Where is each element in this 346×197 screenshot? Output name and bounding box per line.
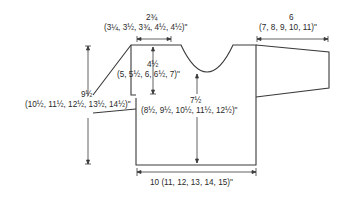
width-label: 10 (11, 12, 13, 14, 15)": [150, 178, 233, 188]
neck-width-main: 2¾: [146, 13, 157, 23]
body-length-sizes: (8½, 9½, 10½, 11½, 12½)": [141, 106, 238, 116]
total-length-sizes: (10½, 11½, 12½, 13½, 14½)": [25, 100, 131, 110]
armhole-depth-sizes: (5, 5½, 6, 6½, 7)": [117, 70, 180, 80]
sleeve-outline: [256, 45, 329, 97]
neck-width-sizes: (3¼, 3½, 3¾, 4½, 4½)": [104, 23, 187, 33]
sleeve-length-main: 6: [289, 13, 294, 23]
body-length-main: 7½: [190, 96, 201, 106]
sleeve-length-sizes: (7, 8, 9, 10, 11)": [259, 23, 317, 33]
total-length-main: 9½: [81, 90, 92, 100]
armhole-depth-main: 4½: [147, 60, 158, 70]
